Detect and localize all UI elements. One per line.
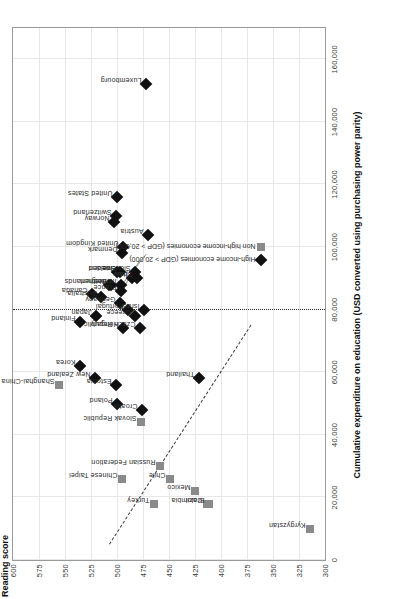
x-axis-tick: 40,000 [330, 423, 339, 447]
y-axis-tick: 475 [139, 564, 148, 577]
data-point-label: Chile [149, 472, 166, 479]
square-marker-icon [137, 418, 145, 426]
data-point-label: Kyrgyzstan [269, 522, 306, 529]
data-point[interactable] [118, 475, 126, 483]
y-gridline [65, 28, 66, 560]
y-axis-tick: 550 [61, 564, 70, 577]
data-point[interactable] [191, 487, 199, 495]
square-marker-icon [156, 462, 164, 470]
x-axis-tick: 120,000 [330, 170, 339, 199]
diamond-marker-icon [142, 228, 155, 241]
y-axis-tick: 400 [217, 564, 226, 577]
x-axis-tick: 140,000 [330, 108, 339, 137]
data-point[interactable] [132, 274, 141, 283]
square-marker-icon [166, 475, 174, 483]
square-marker-icon [257, 243, 265, 251]
data-point[interactable] [117, 280, 126, 289]
y-axis-tick: 325 [295, 564, 304, 577]
data-point[interactable] [111, 380, 120, 389]
data-point-label: Brazil [185, 497, 204, 504]
square-marker-icon [191, 487, 199, 495]
data-point[interactable] [55, 381, 63, 389]
data-point-label: Turkey [128, 497, 150, 504]
diamond-marker-icon [138, 303, 151, 316]
data-point[interactable] [137, 418, 145, 426]
square-marker-icon [306, 525, 314, 533]
data-point-label: Norway [84, 215, 109, 222]
y-axis-tick: 600 [9, 564, 18, 577]
data-point-label: Thailand [166, 372, 194, 379]
data-point-label: Czech Republic [84, 321, 136, 328]
y-gridline [39, 28, 40, 560]
y-axis-tick: 375 [243, 564, 252, 577]
data-point-label: United States [68, 190, 113, 197]
legend-marker [257, 243, 265, 251]
data-point-label: Shanghai-China [1, 378, 54, 385]
data-point[interactable] [135, 324, 144, 333]
y-axis-tick: 450 [165, 564, 174, 577]
data-point-label: Switzerland [73, 209, 111, 216]
diamond-marker-icon [193, 372, 206, 385]
data-point[interactable] [140, 305, 149, 314]
diamond-marker-icon [140, 78, 153, 91]
data-point-label: Ireland [94, 278, 117, 285]
y-axis-tick: 575 [35, 564, 44, 577]
diamond-marker-icon [111, 191, 124, 204]
y-gridline [143, 28, 144, 560]
data-point-label: Denmark [88, 246, 118, 253]
data-point-label: Croatia [113, 403, 137, 410]
data-point-label: Luxembourg [101, 77, 142, 84]
x-axis-tick: 0 [330, 558, 339, 562]
data-point[interactable] [306, 525, 314, 533]
data-point[interactable] [130, 311, 139, 320]
x-axis-tick: 20,000 [330, 485, 339, 509]
mean-expenditure-line [13, 309, 325, 310]
data-point[interactable] [166, 475, 174, 483]
y-gridline [221, 28, 222, 560]
data-point-label: Estonia [87, 378, 112, 385]
data-point[interactable] [150, 500, 158, 508]
data-point-label: United Kingdom [66, 240, 119, 247]
square-marker-icon [150, 500, 158, 508]
data-point[interactable] [156, 462, 164, 470]
data-point-label: Austria [121, 228, 144, 235]
x-axis-tick: 160,000 [330, 45, 339, 74]
y-axis-tick: 300 [321, 564, 330, 577]
data-point-label: Russian Federation [91, 459, 155, 466]
data-point-label: Poland [90, 397, 113, 404]
x-axis-tick: 80,000 [330, 298, 339, 322]
square-marker-icon [205, 500, 213, 508]
data-point[interactable] [92, 311, 101, 320]
square-marker-icon [118, 475, 126, 483]
trend-line [109, 325, 251, 545]
data-point[interactable] [195, 374, 204, 383]
y-gridline [299, 28, 300, 560]
data-point[interactable] [142, 80, 151, 89]
data-point[interactable] [113, 193, 122, 202]
data-point-label: Korea [55, 359, 75, 366]
y-gridline [247, 28, 248, 560]
legend-label: High-income economies (GDP > 20,000) [129, 256, 255, 263]
y-axis-tick: 525 [87, 564, 96, 577]
diamond-marker-icon [115, 278, 128, 291]
data-point-label: Chinese Taipei [69, 472, 118, 479]
data-point-label: Finland [51, 315, 75, 322]
data-point[interactable] [205, 500, 213, 508]
data-point-label: Japan [72, 309, 92, 316]
data-point-label: Israel [121, 303, 139, 310]
legend-marker [256, 255, 265, 264]
y-gridline [273, 28, 274, 560]
square-marker-icon [55, 381, 63, 389]
data-point-label: Mexico [167, 484, 190, 491]
data-point[interactable] [75, 361, 84, 370]
x-axis-tick: 100,000 [330, 233, 339, 262]
data-point[interactable] [111, 211, 120, 220]
data-point[interactable] [144, 230, 153, 239]
data-point[interactable] [137, 405, 146, 414]
chart-figure: Reading score 020,00040,00060,00080,0001… [0, 0, 394, 599]
y-axis-tick: 500 [113, 564, 122, 577]
y-axis-tick: 425 [191, 564, 200, 577]
diamond-marker-icon [254, 253, 267, 266]
x-axis-title: Cumulative expenditure on education (USD… [352, 29, 362, 561]
y-axis-tick: 350 [269, 564, 278, 577]
